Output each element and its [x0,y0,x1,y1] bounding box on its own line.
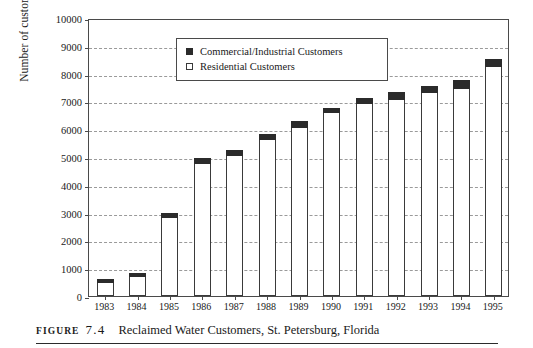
x-tick-mark [300,296,301,300]
bar-segment-residential [453,89,470,296]
chart-legend: Commercial/Industrial Customers Resident… [176,38,388,81]
x-tick-mark [170,296,171,300]
x-tick-mark [494,296,495,300]
bar-segment-commercial [421,86,438,93]
bar-segment-residential [129,277,146,296]
y-tick-mark [85,270,89,271]
y-tick-label: 9000 [38,41,82,52]
y-tick-label: 10000 [38,14,82,25]
bar-1989 [291,121,308,296]
y-tick-mark [85,76,89,77]
bar-1992 [388,92,405,296]
x-tick-mark [202,296,203,300]
x-tick-mark [105,296,106,300]
bar-1988 [259,134,276,296]
bar-segment-commercial [453,80,470,89]
y-tick-label: 8000 [38,69,82,80]
bar-segment-residential [388,100,405,296]
y-tick-mark [85,298,89,299]
caption-figure-number: 7.4 [86,322,106,338]
bar-segment-commercial [388,92,405,100]
bar-segment-residential [97,283,114,296]
x-tick-mark [397,296,398,300]
caption-figure-word: FIGURE [36,326,80,336]
y-tick-mark [85,48,89,49]
y-tick-mark [85,215,89,216]
bar-1990 [323,108,340,296]
bar-1995 [485,59,502,296]
bar-segment-commercial [485,59,502,67]
y-tick-label: 5000 [38,153,82,164]
hollow-square-icon [186,63,193,70]
bar-segment-residential [421,93,438,296]
y-tick-mark [85,242,89,243]
y-tick-label: 1000 [38,264,82,275]
y-tick-mark [85,131,89,132]
filled-square-icon [186,48,193,55]
x-tick-mark [267,296,268,300]
bar-1987 [226,150,243,297]
y-axis-title: Number of customers [18,0,34,106]
y-tick-label: 7000 [38,97,82,108]
bar-segment-residential [259,140,276,296]
bar-1993 [421,86,438,296]
bar-segment-residential [161,218,178,296]
figure-container: Number of customers Commercial/Industria… [0,0,533,348]
legend-item-residential: Residential Customers [186,59,378,74]
y-tick-mark [85,187,89,188]
chart: Number of customers Commercial/Industria… [0,0,533,318]
y-tick-mark [85,20,89,21]
x-tick-mark [332,296,333,300]
caption-text: Reclaimed Water Customers, St. Petersbur… [118,323,379,338]
bar-1984 [129,273,146,296]
bar-1983 [97,279,114,296]
y-tick-label: 2000 [38,236,82,247]
bar-1991 [356,98,373,296]
figure-caption: FIGURE 7.4 Reclaimed Water Customers, St… [36,322,498,344]
x-tick-mark [235,296,236,300]
y-tick-label: 0 [38,292,82,303]
legend-item-commercial: Commercial/Industrial Customers [186,44,378,59]
gridline [89,103,508,104]
bar-segment-residential [194,164,211,296]
bar-segment-residential [485,67,502,296]
x-tick-mark [138,296,139,300]
y-tick-mark [85,103,89,104]
bar-segment-residential [226,156,243,296]
y-tick-label: 6000 [38,125,82,136]
bar-segment-residential [323,113,340,296]
y-tick-label: 4000 [38,180,82,191]
x-tick-mark [461,296,462,300]
bar-1994 [453,80,470,296]
bar-segment-residential [291,128,308,296]
bar-1986 [194,158,211,296]
legend-label-residential: Residential Customers [200,61,295,72]
x-tick-label-1995: 1995 [473,301,513,312]
bar-segment-residential [356,104,373,296]
y-tick-mark [85,159,89,160]
legend-label-commercial: Commercial/Industrial Customers [200,46,343,57]
x-tick-mark [429,296,430,300]
y-tick-label: 3000 [38,208,82,219]
x-tick-mark [364,296,365,300]
bar-1985 [161,213,178,296]
